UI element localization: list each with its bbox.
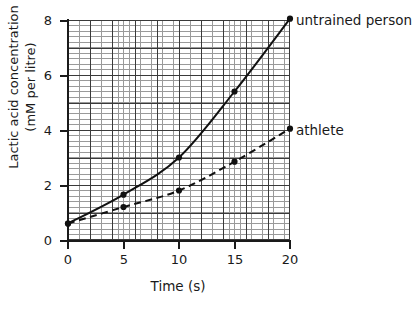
series-untrained-markers bbox=[65, 16, 293, 227]
data-point-athlete-0 bbox=[65, 220, 71, 226]
data-point-untrained-10 bbox=[176, 154, 182, 160]
data-curves bbox=[0, 0, 413, 311]
data-point-athlete-15 bbox=[231, 159, 237, 165]
data-point-athlete-5 bbox=[120, 204, 126, 210]
series-athlete-markers bbox=[65, 126, 293, 227]
series-athlete-line bbox=[68, 129, 290, 224]
data-point-untrained-20 bbox=[287, 16, 293, 22]
data-point-untrained-15 bbox=[231, 88, 237, 94]
chart-figure: 0 2 4 6 8 0 5 10 15 20 Lactic acid conce… bbox=[0, 0, 413, 311]
data-point-athlete-20 bbox=[287, 126, 293, 132]
data-point-athlete-10 bbox=[176, 187, 182, 193]
series-label-athlete: athlete bbox=[296, 123, 344, 137]
series-label-untrained: untrained person bbox=[296, 13, 412, 27]
data-point-untrained-5 bbox=[120, 192, 126, 198]
